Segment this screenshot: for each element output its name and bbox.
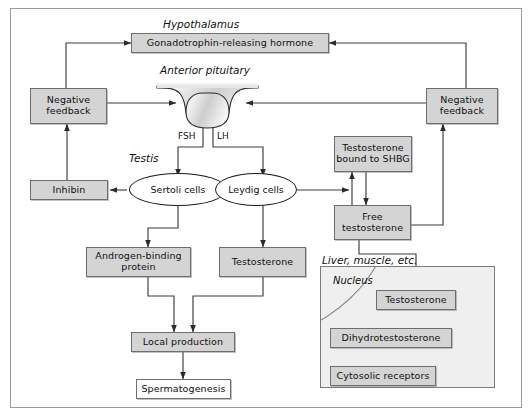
node-androgen-binding-protein[interactable]: Androgen-binding protein xyxy=(86,247,191,277)
node-sertoli-cells[interactable]: Sertoli cells xyxy=(129,173,227,206)
node-spermatogenesis[interactable]: Spermatogenesis xyxy=(136,379,231,399)
free-testosterone-line1: Free xyxy=(362,212,383,223)
edge-label-lh: LH xyxy=(217,131,229,141)
free-testosterone-line2: testosterone xyxy=(342,223,403,234)
node-negative-feedback-right[interactable]: Negative feedback xyxy=(426,88,498,124)
negative-feedback-left-line2: feedback xyxy=(46,106,90,117)
node-gnrh[interactable]: Gonadotrophin-releasing hormone xyxy=(131,33,329,53)
node-leydig-cells[interactable]: Leydig cells xyxy=(215,173,297,206)
diagram-canvas: Hypothalamus Anterior pituitary Testis L… xyxy=(0,0,532,420)
label-hypothalamus: Hypothalamus xyxy=(163,18,239,30)
node-testosterone-bound-shbg[interactable]: Testosterone bound to SHBG xyxy=(334,136,412,172)
label-testis: Testis xyxy=(129,152,159,164)
negative-feedback-right-line2: feedback xyxy=(440,106,484,117)
node-cytosolic-receptors[interactable]: Cytosolic receptors xyxy=(330,366,436,386)
testosterone-shbg-line2: bound to SHBG xyxy=(336,154,410,165)
node-inhibin[interactable]: Inhibin xyxy=(30,180,108,200)
label-nucleus: Nucleus xyxy=(333,275,373,286)
node-free-testosterone[interactable]: Free testosterone xyxy=(334,205,411,240)
node-testosterone-cell[interactable]: Testosterone xyxy=(376,290,456,310)
androgen-binding-line2: protein xyxy=(121,262,155,273)
edge-label-fsh: FSH xyxy=(178,131,196,141)
node-testosterone-testis[interactable]: Testosterone xyxy=(219,247,306,277)
node-dihydrotestosterone[interactable]: Dihydrotestosterone xyxy=(330,328,452,348)
node-negative-feedback-left[interactable]: Negative feedback xyxy=(30,88,107,124)
label-anterior-pituitary: Anterior pituitary xyxy=(160,64,250,76)
node-local-production[interactable]: Local production xyxy=(131,332,235,352)
label-liver-muscle: Liver, muscle, etc. xyxy=(322,254,417,266)
